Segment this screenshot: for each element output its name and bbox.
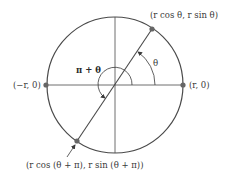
label-angle-theta: θ [153, 58, 158, 68]
theta-arc [138, 52, 155, 85]
label-point-left: (−r, 0) [13, 80, 41, 90]
label-point-theta-pi: (r cos (θ + π), r sin (θ + π)) [26, 160, 144, 170]
label-angle-pi-theta: π + θ [76, 65, 101, 75]
point-theta-pi [74, 138, 79, 143]
point-right [180, 82, 185, 87]
point-theta [149, 26, 154, 31]
point-left [43, 82, 48, 87]
pointer-arrow [67, 145, 75, 157]
label-point-right: (r, 0) [189, 80, 210, 90]
polar-diagram: (r cos θ, r sin θ) (r cos (θ + π), r sin… [0, 0, 227, 182]
label-point-theta: (r cos θ, r sin θ) [150, 10, 218, 20]
